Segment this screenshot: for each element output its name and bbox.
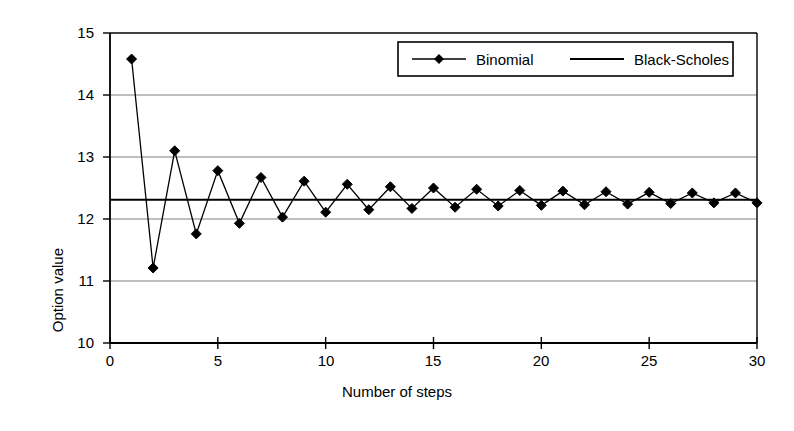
- series-binomial-markers: [127, 54, 762, 273]
- y-axis-ticks: [103, 33, 110, 343]
- chart-figure: Option value 15 14 13 12 11 10 0 5 10 15…: [0, 0, 794, 431]
- chart-legend: BinomialBlack-Scholes: [398, 42, 733, 76]
- series-binomial-line: [132, 59, 757, 268]
- legend-label-binomial: Binomial: [476, 51, 534, 68]
- plot-area: BinomialBlack-Scholes: [0, 0, 794, 431]
- legend-label-black-scholes: Black-Scholes: [634, 51, 729, 68]
